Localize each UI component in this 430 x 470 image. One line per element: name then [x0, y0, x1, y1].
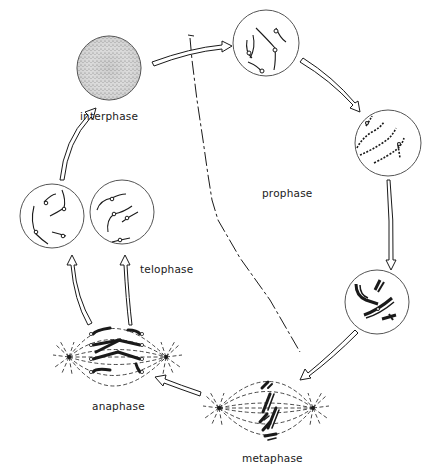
- telophase-cell-left: [20, 184, 84, 248]
- diagram-canvas: [0, 0, 430, 470]
- prophase-mid-cell: [355, 110, 421, 176]
- metaphase-chromosomes: [260, 382, 279, 440]
- anaphase-centriole-right: [164, 355, 168, 359]
- arrow-prophase-early-to-mid: [300, 58, 360, 112]
- arrow-prophase-mid-to-late: [386, 180, 396, 270]
- label-metaphase: metaphase: [242, 452, 303, 464]
- arrow-metaphase-to-anaphase: [155, 375, 201, 396]
- metaphase-centriole-left: [217, 406, 221, 410]
- anaphase-centriole-left: [67, 355, 71, 359]
- divider-tick: [188, 35, 194, 36]
- label-interphase: interphase: [80, 110, 138, 122]
- mitosis-diagram: interphase prophase metaphase anaphase t…: [0, 0, 430, 470]
- arrow-anaphase-to-telophase-right: [120, 255, 132, 325]
- metaphase-centriole-right: [311, 406, 315, 410]
- prophase-late-cell: [345, 270, 409, 334]
- anaphase-chromosomes: [93, 328, 140, 372]
- arrow-prophase-late-to-metaphase: [300, 330, 358, 380]
- label-anaphase: anaphase: [92, 400, 145, 412]
- interphase-cell: [77, 36, 141, 100]
- label-prophase: prophase: [262, 187, 312, 199]
- prophase-early-cell: [233, 10, 299, 76]
- label-telophase: telophase: [140, 263, 193, 275]
- arrow-anaphase-to-telophase-left: [67, 255, 92, 325]
- telophase-cell-right: [90, 180, 154, 244]
